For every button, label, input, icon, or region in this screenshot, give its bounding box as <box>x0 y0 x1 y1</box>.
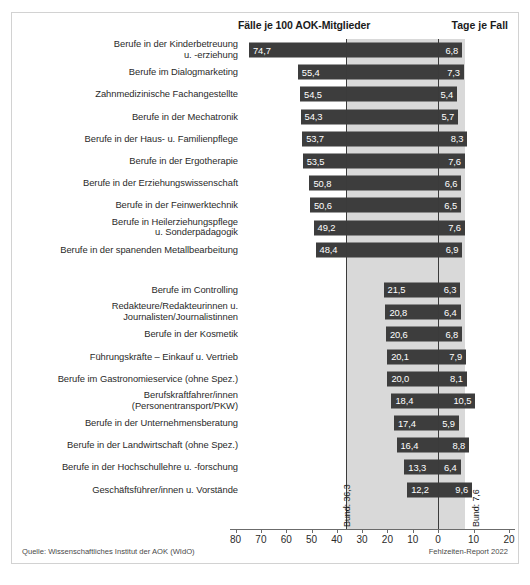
bar-value-faelle: 20,0 <box>391 373 409 384</box>
chart-row: Berufe in der Hochschullehre u. -forschu… <box>12 456 520 478</box>
bar-tage: 6,4 <box>438 460 461 475</box>
bar-tage: 7,6 <box>438 220 465 235</box>
axis-tick <box>413 529 414 533</box>
bar-group: 50,86,6 <box>12 172 520 194</box>
axis-tick-label: 50 <box>306 534 317 545</box>
chart-row: Berufe in der Feinwerktechnik50,66,5 <box>12 194 520 216</box>
bar-value-tage: 6,9 <box>446 244 459 255</box>
bar-group: 50,66,5 <box>12 194 520 216</box>
bar-value-faelle: 55,4 <box>302 67 320 78</box>
chart-header: Fälle je 100 AOK-Mitglieder Tage je Fall <box>12 13 518 39</box>
chart-row: Berufe im Controlling21,56,3 <box>12 279 520 301</box>
bar-faelle: 13,3 <box>404 460 438 475</box>
bar-group: 74,76,8 <box>12 39 520 61</box>
bar-value-tage: 8,1 <box>450 373 463 384</box>
bar-group: 20,86,4 <box>12 301 520 323</box>
bar-tage: 7,9 <box>438 349 466 364</box>
axis-tick-label: 30 <box>357 534 368 545</box>
bar-tage: 5,7 <box>438 109 458 124</box>
bar-tage: 7,6 <box>438 154 465 169</box>
bar-group: 13,36,4 <box>12 456 520 478</box>
bar-faelle: 50,6 <box>310 198 438 213</box>
bar-tage: 7,3 <box>438 65 464 80</box>
axis-tick-label: 0 <box>435 534 441 545</box>
bar-faelle: 55,4 <box>298 65 438 80</box>
bar-faelle: 20,6 <box>386 327 438 342</box>
bar-value-faelle: 12,2 <box>411 484 429 495</box>
axis-tick <box>474 529 475 533</box>
axis-tick-label: 10 <box>407 534 418 545</box>
chart-row: Berufe in Heilerziehungspflege u. Sonder… <box>12 217 520 239</box>
bar-tage: 8,3 <box>438 131 467 146</box>
chart-row: Berufe in der Erziehungswissenschaft50,8… <box>12 172 520 194</box>
bar-tage: 6,8 <box>438 43 462 58</box>
chart-row: Berufe in der spanenden Metallbearbeitun… <box>12 239 520 261</box>
chart-card: Fälle je 100 AOK-Mitglieder Tage je Fall… <box>11 12 519 564</box>
bar-faelle: 54,5 <box>300 87 438 102</box>
bar-value-faelle: 48,4 <box>320 244 338 255</box>
chart-row: Berufe im Gastronomieservice (ohne Spez.… <box>12 368 520 390</box>
bar-group: 49,27,6 <box>12 217 520 239</box>
axis-tick <box>509 529 510 533</box>
bar-group: 55,47,3 <box>12 61 520 83</box>
bar-value-faelle: 54,3 <box>305 111 323 122</box>
bar-group: 20,08,1 <box>12 368 520 390</box>
chart-row: Berufe in der Ergotherapie53,57,6 <box>12 150 520 172</box>
axis-tick <box>261 529 262 533</box>
bar-value-faelle: 16,4 <box>401 440 419 451</box>
bar-group: 20,66,8 <box>12 323 520 345</box>
bar-faelle: 74,7 <box>249 43 438 58</box>
bar-value-faelle: 13,3 <box>408 462 426 473</box>
bar-value-tage: 8,8 <box>453 440 466 451</box>
axis-tick <box>362 529 363 533</box>
bar-faelle: 17,4 <box>394 416 438 431</box>
chart-row: Zahnmedizinische Fachangestellte54,55,4 <box>12 83 520 105</box>
bar-group: 12,29,6 <box>12 479 520 501</box>
reference-line-left <box>346 39 347 529</box>
bar-value-faelle: 54,5 <box>304 89 322 100</box>
bar-tage: 10,5 <box>438 393 475 408</box>
axis-tick-label: 10 <box>468 534 479 545</box>
bar-faelle: 12,2 <box>407 482 438 497</box>
axis-tick-label: 20 <box>382 534 393 545</box>
bar-value-faelle: 18,4 <box>395 395 413 406</box>
source-note: Quelle: Wissenschaftliches Institut der … <box>22 547 195 556</box>
bar-value-tage: 5,4 <box>440 89 453 100</box>
bar-value-tage: 6,5 <box>444 200 457 211</box>
bar-group: 53,78,3 <box>12 128 520 150</box>
bar-group: 53,57,6 <box>12 150 520 172</box>
bar-faelle: 20,0 <box>387 371 438 386</box>
chart-page: Fälle je 100 AOK-Mitglieder Tage je Fall… <box>0 0 530 585</box>
bar-tage: 6,9 <box>438 242 462 257</box>
bar-value-tage: 6,4 <box>444 462 457 473</box>
bar-tage: 6,3 <box>438 282 460 297</box>
bar-value-faelle: 74,7 <box>253 45 271 56</box>
bar-value-faelle: 53,7 <box>306 133 324 144</box>
bar-value-faelle: 21,5 <box>388 284 406 295</box>
bar-faelle: 20,8 <box>385 305 438 320</box>
group-separator <box>12 261 520 279</box>
bar-faelle: 21,5 <box>384 282 438 297</box>
bar-value-tage: 5,7 <box>442 111 455 122</box>
bar-group: 54,35,7 <box>12 106 520 128</box>
axis-tick <box>286 529 287 533</box>
axis-tick <box>236 529 237 533</box>
bund-label-left: Bund: 36,3 <box>342 484 352 527</box>
bar-value-tage: 7,9 <box>449 351 462 362</box>
bar-value-tage: 6,8 <box>445 329 458 340</box>
bar-group: 54,55,4 <box>12 83 520 105</box>
bar-group: 21,56,3 <box>12 279 520 301</box>
bar-faelle: 49,2 <box>314 220 438 235</box>
bar-group: 16,48,8 <box>12 434 520 456</box>
axis-tick-label: 60 <box>281 534 292 545</box>
chart-row: Führungskräfte – Einkauf u. Vertrieb20,1… <box>12 345 520 367</box>
bar-group: 20,17,9 <box>12 345 520 367</box>
left-axis-title: Fälle je 100 AOK-Mitglieder <box>238 19 370 31</box>
bar-value-faelle: 20,8 <box>389 307 407 318</box>
axis-line <box>230 529 515 530</box>
bar-value-faelle: 20,1 <box>391 351 409 362</box>
axis-tick <box>387 529 388 533</box>
chart-row: Berufe in der Kinderbetreuung u. -erzieh… <box>12 39 520 61</box>
bar-tage: 6,4 <box>438 305 461 320</box>
axis-tick <box>312 529 313 533</box>
